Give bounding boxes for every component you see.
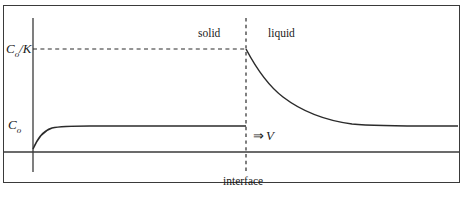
region-label-liquid: liquid <box>268 28 295 40</box>
velocity-annotation: ⇒V <box>253 129 274 142</box>
solid-region-curve <box>33 126 246 149</box>
figure-container: Co/K Co solid liquid interface ⇒V <box>0 0 464 198</box>
axis-label-co-c: C <box>8 117 17 132</box>
axis-label-co-sub: o <box>17 125 22 135</box>
interface-label: interface <box>223 176 263 188</box>
velocity-symbol: V <box>266 128 274 143</box>
axis-label-co: Co <box>8 118 21 135</box>
concentration-profile-plot <box>0 0 464 198</box>
axis-label-co-over-k: Co/K <box>6 42 31 59</box>
double-arrow-icon: ⇒ <box>253 128 264 143</box>
region-label-solid: solid <box>198 28 220 40</box>
axis-label-co-over-k-c: C <box>6 41 15 56</box>
axis-label-co-over-k-tail: /K <box>19 41 31 56</box>
liquid-region-curve <box>246 49 458 126</box>
